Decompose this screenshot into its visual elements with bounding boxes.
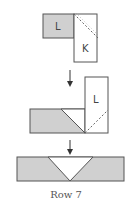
label-l: L — [93, 94, 99, 105]
label-k: K — [82, 43, 89, 54]
arrow-down-icon — [67, 140, 73, 155]
rect-k — [74, 14, 97, 62]
step-2: L — [30, 77, 108, 133]
step-1: L K — [43, 13, 99, 62]
fold-diagram: L K L — [0, 0, 132, 205]
caption: Row 7 — [0, 189, 132, 200]
step-3 — [17, 157, 124, 181]
label-l: L — [55, 21, 61, 32]
rect-l — [85, 77, 108, 133]
arrow-down-icon — [67, 70, 73, 87]
